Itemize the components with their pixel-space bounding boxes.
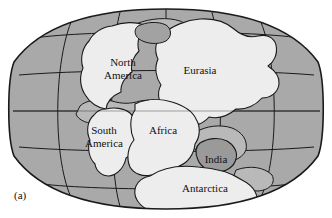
label-antarctica: Antarctica [182, 182, 228, 194]
panel-label: (a) [14, 189, 27, 202]
label-eurasia: Eurasia [184, 64, 217, 76]
pangaea-map: North America Eurasia South America Afri… [0, 0, 332, 218]
label-north-america-line2: America [104, 69, 142, 81]
label-south-america-line2: America [85, 137, 123, 149]
landmass-greenland [135, 22, 170, 43]
label-north-america-line1: North [110, 56, 136, 68]
label-south-america-line1: South [91, 124, 117, 136]
label-africa: Africa [149, 124, 177, 136]
figure-panel: North America Eurasia South America Afri… [0, 0, 332, 218]
label-india: India [205, 153, 228, 165]
